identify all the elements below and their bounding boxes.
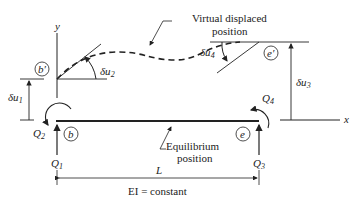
node-e-label: e (240, 128, 245, 140)
EI-label: EI = constant (128, 185, 187, 197)
virtual-displaced-curve (57, 42, 240, 79)
x-axis-label: x (343, 113, 349, 125)
node-eprime-label: e′ (267, 47, 275, 59)
Q1-label: Q1 (51, 157, 63, 171)
du4-label: δu4 (200, 46, 215, 60)
eprime-tangent-line (217, 42, 259, 73)
equilibrium-label-2: position (177, 152, 213, 164)
du2-angle-arc (85, 57, 96, 79)
y-axis-label: y (54, 20, 60, 32)
du2-label: δu2 (100, 65, 115, 79)
Q4-moment-arrow (251, 109, 269, 128)
Q4-label: Q4 (262, 92, 274, 106)
node-bprime-label: b′ (38, 63, 47, 75)
du3-label: δu3 (296, 76, 311, 90)
virtual-displaced-label-2: position (212, 25, 248, 37)
beam-diagram: y δu2 b′ Virtual displaced position δu4 … (0, 0, 359, 209)
Q2-label: Q2 (33, 127, 45, 141)
equilibrium-label-1: Equilibrium (166, 140, 220, 152)
bprime-tangent-line (57, 44, 101, 79)
virtual-displaced-label-1: Virtual displaced (192, 12, 267, 24)
L-label: L (155, 164, 162, 176)
node-b-label: b (68, 128, 74, 140)
virtual-displaced-leader (150, 21, 172, 45)
Q3-label: Q3 (253, 157, 265, 171)
du1-label: δu1 (8, 91, 23, 105)
